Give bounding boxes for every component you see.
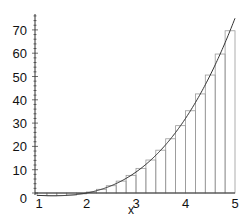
x-tick-label: 4 bbox=[182, 196, 189, 211]
y-tick-label: 20 bbox=[13, 139, 27, 154]
riemann-bar bbox=[166, 139, 176, 193]
x-tick-label: 1 bbox=[35, 196, 42, 211]
riemann-bars bbox=[37, 31, 235, 196]
y-tick-label: 40 bbox=[13, 93, 27, 108]
riemann-bar bbox=[215, 54, 225, 193]
riemann-bar bbox=[225, 31, 235, 193]
riemann-bar bbox=[176, 126, 186, 193]
riemann-bar bbox=[205, 75, 215, 193]
y-tick-label: 70 bbox=[13, 23, 27, 38]
x-tick-label: 2 bbox=[83, 196, 90, 211]
y-tick-label: 0 bbox=[20, 191, 27, 206]
x-axis-ticks: 12345 bbox=[35, 196, 238, 211]
y-tick-label: 60 bbox=[13, 46, 27, 61]
x-tick-label: 5 bbox=[231, 196, 238, 211]
riemann-bar bbox=[195, 94, 205, 193]
y-tick-label: 30 bbox=[13, 116, 27, 131]
y-axis-ticks: 010203040506070 bbox=[13, 16, 38, 206]
riemann-bar bbox=[136, 168, 146, 193]
riemann-bar bbox=[156, 150, 166, 193]
riemann-bar bbox=[186, 111, 196, 193]
y-tick-label: 10 bbox=[13, 163, 27, 178]
x-axis-label: x bbox=[128, 203, 134, 217]
riemann-sum-chart: 010203040506070 12345 x bbox=[0, 0, 246, 221]
y-tick-label: 50 bbox=[13, 70, 27, 85]
riemann-bar bbox=[146, 160, 156, 193]
